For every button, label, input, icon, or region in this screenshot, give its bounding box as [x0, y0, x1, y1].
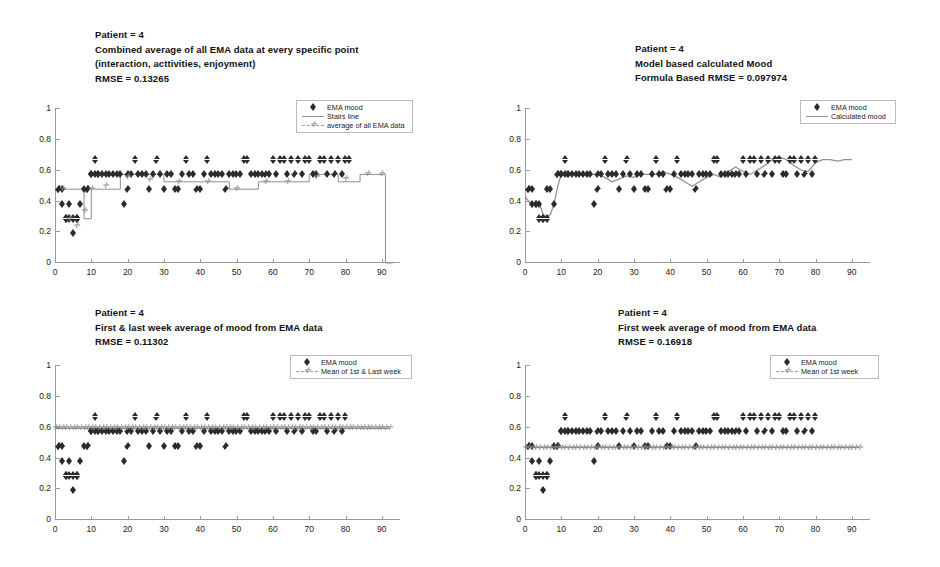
data-point-diamond	[197, 442, 203, 446]
data-point-diamond	[346, 155, 352, 159]
x-tick-label: 20	[116, 267, 140, 277]
x-tick-label: 40	[658, 267, 682, 277]
data-point-diamond	[342, 412, 348, 416]
title-line: Formula Based RMSE = 0.097974	[635, 71, 787, 86]
x-tick-label: 30	[622, 524, 646, 534]
data-point-diamond	[204, 155, 210, 159]
data-point-diamond	[547, 185, 553, 189]
average-plus-marker: ✛	[313, 173, 320, 181]
data-point-diamond	[591, 457, 597, 461]
data-point-diamond	[591, 200, 597, 204]
data-point-diamond	[671, 170, 677, 174]
data-point-diamond	[649, 427, 655, 431]
legend-label: average of all EMA data	[326, 121, 404, 130]
data-point-diamond	[281, 155, 287, 159]
data-point-diamond	[762, 170, 768, 174]
data-point-diamond	[306, 412, 312, 416]
x-tick-label: 30	[622, 267, 646, 277]
data-point-diamond	[121, 457, 127, 461]
x-tick-label: 50	[695, 267, 719, 277]
data-point-diamond	[587, 170, 593, 174]
data-point-diamond	[602, 412, 608, 416]
data-point-diamond	[306, 155, 312, 159]
data-point-diamond	[59, 442, 65, 446]
plot-area-bottom-right: 1 0.8 0.6 0.4 0.2 0 0102030405060708090 …	[525, 365, 870, 520]
series-markers-top-right	[525, 108, 870, 263]
legend-top-right: EMA mood Calculated mood	[800, 100, 896, 124]
data-point-diamond	[146, 442, 152, 446]
data-point-diamond	[183, 412, 189, 416]
legend-row: ✛ Mean of 1st week	[774, 367, 874, 376]
data-point-diamond	[551, 200, 557, 204]
data-point-diamond	[324, 170, 330, 174]
legend-label: EMA mood	[326, 103, 363, 112]
x-tick-label: 60	[261, 524, 285, 534]
data-point-diamond	[529, 185, 535, 189]
data-point-diamond	[143, 170, 149, 174]
data-point-diamond	[321, 155, 327, 159]
data-point-diamond	[288, 155, 294, 159]
y-tick-label: 0.4	[27, 196, 51, 206]
plot-area-top-right: 1 0.8 0.6 0.4 0.2 0 0102030405060708090	[525, 108, 870, 263]
y-tick-label: 0	[27, 514, 51, 524]
data-point-diamond	[270, 155, 276, 159]
plus-line-icon: ✛	[774, 367, 800, 376]
data-point-diamond	[77, 200, 83, 204]
data-point-diamond	[132, 155, 138, 159]
average-plus-marker: ✛	[378, 170, 385, 178]
x-tick-label: 40	[658, 524, 682, 534]
legend-row: EMA mood	[300, 103, 408, 112]
data-point-diamond	[117, 170, 123, 174]
data-point-diamond	[631, 185, 637, 189]
x-tick-label: 80	[804, 524, 828, 534]
data-point-diamond	[223, 442, 229, 446]
y-tick-label: 0.4	[27, 453, 51, 463]
y-tick-label: 0.8	[497, 391, 521, 401]
average-plus-marker: ✛	[284, 178, 291, 186]
average-plus-marker: ✛	[88, 185, 95, 193]
y-tick-label: 0.6	[497, 165, 521, 175]
data-point-diamond	[776, 155, 782, 159]
y-tick-label: 0.8	[497, 134, 521, 144]
x-tick-label: 70	[297, 267, 321, 277]
data-point-diamond	[714, 155, 720, 159]
x-tick-label: 90	[370, 524, 394, 534]
title-line: (interaction, acttivities, enjoyment)	[95, 57, 358, 72]
legend-bottom-right: EMA mood ✛ Mean of 1st week	[770, 355, 879, 379]
x-tick-label: 90	[840, 267, 864, 277]
data-point-diamond	[536, 457, 542, 461]
data-point-diamond	[529, 457, 535, 461]
average-plus-marker: ✛	[175, 178, 182, 186]
series-markers-bottom-right: ✛✛✛✛✛✛✛✛✛✛✛✛✛✛✛✛✛✛✛✛✛✛✛✛✛✛✛✛✛✛✛✛✛✛✛✛✛✛✛✛…	[525, 365, 870, 520]
data-point-diamond	[624, 155, 630, 159]
data-point-diamond	[794, 170, 800, 174]
data-point-diamond	[783, 170, 789, 174]
data-point-diamond	[671, 427, 677, 431]
data-point-diamond	[281, 412, 287, 416]
x-tick-label: 30	[152, 267, 176, 277]
data-point-diamond	[295, 412, 301, 416]
title-line: Patient = 4	[618, 306, 816, 321]
data-point-diamond	[92, 155, 98, 159]
data-point-diamond	[740, 155, 746, 159]
data-point-diamond	[161, 185, 167, 189]
panel-title-bottom-right: Patient = 4 First week average of mood f…	[618, 306, 816, 350]
data-point-diamond	[812, 155, 818, 159]
data-point-diamond	[802, 170, 808, 174]
data-point-diamond	[587, 427, 593, 431]
title-line: Patient = 4	[95, 306, 323, 321]
data-point-diamond	[627, 170, 633, 174]
data-point-diamond	[547, 457, 553, 461]
panel-bottom-left: Patient = 4 First & last week average of…	[0, 290, 470, 567]
data-point-diamond	[613, 427, 619, 431]
y-tick-label: 1	[497, 103, 521, 113]
data-point-diamond	[743, 170, 749, 174]
title-line: Patient = 4	[635, 42, 787, 57]
data-point-diamond	[295, 155, 301, 159]
data-point-diamond	[689, 170, 695, 174]
data-point-diamond	[328, 155, 334, 159]
x-tick-label: 40	[188, 524, 212, 534]
data-point-diamond	[798, 155, 804, 159]
legend-row: ✛ average of all EMA data	[300, 121, 408, 130]
data-point-diamond	[595, 185, 601, 189]
